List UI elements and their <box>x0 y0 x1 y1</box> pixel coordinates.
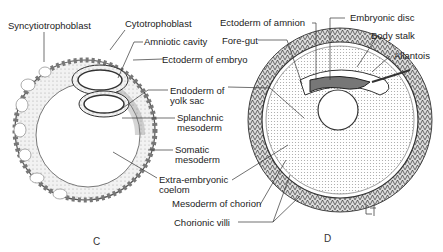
label-extra-embryonic-coelom-line2: coelom <box>159 185 190 195</box>
label-chorionic-villi: Chorionic villi <box>174 218 230 228</box>
label-amniotic-cavity: Amniotic cavity <box>144 37 207 47</box>
figure-d-letter: D <box>324 233 331 244</box>
label-mesoderm-of-chorion: Mesoderm of chorion <box>172 199 261 209</box>
label-fore-gut: Fore-gut <box>222 36 258 46</box>
label-splanchnic-mesoderm-line2: mesoderm <box>177 123 222 133</box>
figure-c-blastocyst <box>14 60 155 200</box>
figure-c-letter: C <box>93 236 100 247</box>
label-somatic-mesoderm-line2: mesoderm <box>175 155 220 165</box>
label-ectoderm-of-embryo: Ectoderm of embryo <box>162 55 248 65</box>
label-embryonic-disc: Embryonic disc <box>350 13 414 23</box>
label-body-stalk: Body stalk <box>371 31 415 41</box>
label-endoderm-of-yolk-sac-line2: yolk sac <box>170 96 204 106</box>
label-syncytiotrophoblast: Syncytiotrophoblast <box>8 21 91 31</box>
label-cytotrophoblast: Cytotrophoblast <box>125 19 192 29</box>
label-allantois: Allantois <box>394 51 430 61</box>
label-ectoderm-of-amnion: Ectoderm of amnion <box>220 18 305 28</box>
